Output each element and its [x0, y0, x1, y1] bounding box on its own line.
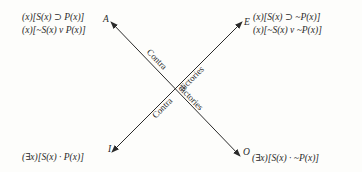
- a-formula-2: (x)[~S(x) v P(x)]: [22, 24, 86, 37]
- e-formula-1: (x)[S(x) ⊃ ~P(x)]: [253, 11, 322, 24]
- e-formula-2: (x)[~S(x) v ~P(x)]: [253, 24, 322, 37]
- a-letter: A: [103, 14, 109, 24]
- o-formula-1: (∃x)[S(x) · ~P(x)]: [252, 152, 319, 165]
- i-e-contradictory-line: [112, 22, 242, 152]
- square-of-opposition-diagram: (x)[S(x) ⊃ P(x)] (x)[~S(x) v P(x)] A E (…: [0, 0, 362, 172]
- e-formulas: (x)[S(x) ⊃ ~P(x)] (x)[~S(x) v ~P(x)]: [253, 11, 322, 37]
- i-formulas: (∃x)[S(x) · P(x)]: [22, 151, 84, 164]
- o-letter: O: [243, 147, 250, 157]
- o-formulas: (∃x)[S(x) · ~P(x)]: [252, 152, 319, 165]
- a-formula-1: (x)[S(x) ⊃ P(x)]: [22, 11, 86, 24]
- a-formulas: (x)[S(x) ⊃ P(x)] (x)[~S(x) v P(x)]: [22, 11, 86, 37]
- i-letter: I: [108, 144, 111, 154]
- i-formula-1: (∃x)[S(x) · P(x)]: [22, 151, 84, 164]
- e-letter: E: [244, 17, 250, 27]
